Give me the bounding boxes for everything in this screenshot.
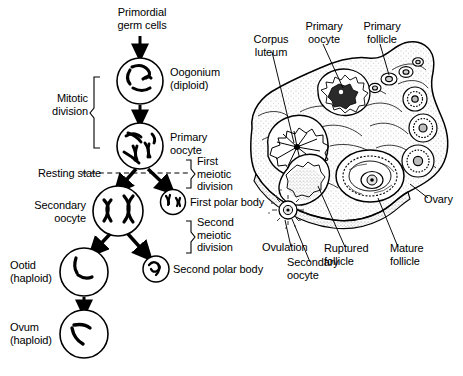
label-primordial-germ-cells: Primordial germ cells — [102, 6, 182, 31]
cell-first-polar-body — [161, 190, 186, 215]
label-ovum: Ovum (haploid) — [10, 321, 52, 346]
label-ovulation: Ovulation — [262, 241, 308, 254]
ovary-illustration — [251, 42, 448, 262]
bracket-second-meiotic — [186, 221, 195, 253]
label-ovary-primary-oocyte: Primary oocyte — [293, 20, 355, 45]
label-mature-follicle: Mature follicle — [390, 242, 424, 267]
label-oogonium: Oogonium (diploid) — [170, 66, 220, 91]
cell-ovum — [60, 310, 108, 358]
label-primary-follicle: Primary follicle — [352, 20, 412, 45]
label-primary-oocyte: Primary oocyte — [170, 131, 207, 156]
label-ovary: Ovary — [424, 193, 453, 206]
bracket-mitotic — [90, 77, 100, 148]
cell-second-polar-body — [143, 256, 169, 282]
label-ootid: Ootid (haploid) — [10, 259, 52, 284]
label-second-polar-body: Second polar body — [173, 263, 263, 276]
label-first-polar-body: First polar body — [190, 196, 264, 209]
label-secondary-oocyte: Secondary oocyte — [6, 199, 86, 224]
label-mitotic-division: Mitotic division — [10, 92, 88, 117]
label-resting-state: Resting state — [38, 167, 101, 180]
structure-mature-follicle — [336, 150, 404, 202]
bracket-first-meiotic — [186, 160, 195, 188]
label-ovary-secondary-oocyte: Secondary oocyte — [287, 256, 339, 281]
oogenesis-figure: Primordial germ cells Oogonium (diploid)… — [0, 0, 463, 376]
cell-secondary-oocyte — [93, 186, 143, 236]
cell-ootid — [60, 248, 108, 296]
label-second-meiotic-division: Second meiotic division — [197, 216, 234, 254]
structure-primary-oocyte — [318, 69, 370, 115]
label-first-meiotic-division: First meiotic division — [197, 155, 233, 193]
